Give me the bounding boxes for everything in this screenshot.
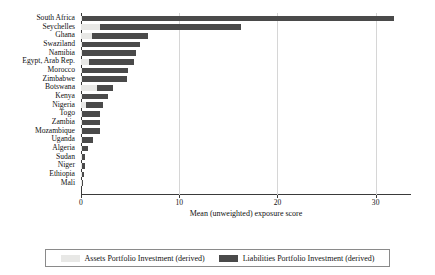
bar-segment-liabilities bbox=[82, 16, 394, 22]
x-tick-label: 20 bbox=[274, 198, 282, 207]
bar-segment-liabilities bbox=[89, 59, 134, 65]
bar-segment-liabilities bbox=[82, 50, 136, 56]
bar-row bbox=[81, 127, 411, 136]
stacked-bar bbox=[81, 42, 140, 48]
bar-segment-liabilities bbox=[82, 128, 100, 134]
bar-row bbox=[81, 49, 411, 58]
bar-segment-liabilities bbox=[97, 85, 113, 91]
bar-row bbox=[81, 170, 411, 179]
bar-row bbox=[81, 118, 411, 127]
bar-row bbox=[81, 14, 411, 23]
stacked-bar bbox=[81, 163, 85, 169]
bar-row bbox=[81, 109, 411, 118]
stacked-bar bbox=[81, 154, 85, 160]
bar-row bbox=[81, 144, 411, 153]
bar-row bbox=[81, 75, 411, 84]
bar-row bbox=[81, 179, 411, 188]
stacked-bar bbox=[81, 146, 88, 152]
bar-segment-liabilities bbox=[82, 42, 140, 48]
x-tick-label: 30 bbox=[372, 198, 380, 207]
bar-segment-liabilities bbox=[100, 24, 241, 30]
stacked-bar bbox=[81, 180, 83, 186]
stacked-bar bbox=[81, 33, 148, 39]
bar-segment-liabilities bbox=[82, 180, 83, 186]
stacked-bar bbox=[81, 111, 100, 117]
bar-row bbox=[81, 31, 411, 40]
x-axis-title: Mean (unweighted) exposure score bbox=[81, 209, 411, 218]
legend-swatch-liab bbox=[219, 255, 238, 262]
x-tick-label: 0 bbox=[79, 198, 83, 207]
bar-segment-liabilities bbox=[82, 172, 84, 178]
bar-row bbox=[81, 135, 411, 144]
bar-row bbox=[81, 161, 411, 170]
bar-rows bbox=[81, 13, 411, 195]
stacked-bar bbox=[81, 102, 103, 108]
bar-row bbox=[81, 153, 411, 162]
legend-label: Assets Portfolio Investment (derived) bbox=[85, 254, 205, 263]
bar-row bbox=[81, 40, 411, 49]
stacked-bar bbox=[81, 120, 100, 126]
bar-row bbox=[81, 66, 411, 75]
stacked-bar bbox=[81, 85, 113, 91]
bar-segment-liabilities bbox=[82, 111, 100, 117]
bar-segment-liabilities bbox=[82, 94, 108, 100]
bar-segment-assets bbox=[81, 85, 97, 91]
bar-segment-liabilities bbox=[82, 120, 100, 126]
x-axis-ticks: 0102030 bbox=[81, 195, 411, 209]
stacked-bar bbox=[81, 76, 127, 82]
bar-segment-liabilities bbox=[82, 163, 85, 169]
portfolio-exposure-chart: South AfricaSeychellesGhanaSwazilandNami… bbox=[0, 0, 435, 275]
legend-entry[interactable]: Liabilities Portfolio Investment (derive… bbox=[219, 254, 375, 263]
stacked-bar bbox=[81, 94, 108, 100]
bar-segment-liabilities bbox=[86, 102, 102, 108]
bar-segment-assets bbox=[81, 24, 100, 30]
plot-area bbox=[81, 13, 411, 195]
bar-row bbox=[81, 83, 411, 92]
y-axis-category-labels: South AfricaSeychellesGhanaSwazilandNami… bbox=[0, 13, 78, 195]
legend-entry[interactable]: Assets Portfolio Investment (derived) bbox=[61, 254, 205, 263]
y-axis-label: Mali bbox=[61, 179, 75, 188]
bar-row bbox=[81, 92, 411, 101]
chart-legend: Assets Portfolio Investment (derived)Lia… bbox=[45, 249, 390, 267]
bar-row bbox=[81, 23, 411, 32]
bar-segment-assets bbox=[81, 59, 89, 65]
bar-segment-assets bbox=[81, 33, 92, 39]
stacked-bar bbox=[81, 24, 241, 30]
bar-segment-liabilities bbox=[82, 68, 128, 74]
bar-segment-liabilities bbox=[82, 146, 89, 152]
bar-segment-liabilities bbox=[82, 76, 127, 82]
stacked-bar bbox=[81, 16, 394, 22]
stacked-bar bbox=[81, 68, 128, 74]
x-tick-label: 10 bbox=[175, 198, 183, 207]
stacked-bar bbox=[81, 59, 134, 65]
bar-segment-liabilities bbox=[82, 137, 93, 143]
bar-row bbox=[81, 57, 411, 66]
legend-swatch-assets bbox=[61, 255, 80, 262]
legend-label: Liabilities Portfolio Investment (derive… bbox=[243, 254, 375, 263]
bar-row bbox=[81, 101, 411, 110]
stacked-bar bbox=[81, 50, 136, 56]
stacked-bar bbox=[81, 172, 84, 178]
bar-segment-liabilities bbox=[92, 33, 148, 39]
stacked-bar bbox=[81, 128, 100, 134]
bar-segment-liabilities bbox=[82, 154, 86, 160]
stacked-bar bbox=[81, 137, 93, 143]
